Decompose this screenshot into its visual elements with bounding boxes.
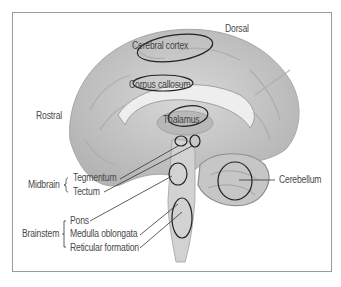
label-medulla-oblongata: Medulla oblongata <box>70 228 137 239</box>
label-midbrain: Midbrain <box>28 179 60 190</box>
label-corpus-callosum: Corpus callosum <box>129 79 190 90</box>
label-tegmentum: Tegmentum <box>73 172 116 183</box>
label-cerebellum: Cerebellum <box>279 174 321 185</box>
label-reticular-formation: Reticular formation <box>70 242 139 253</box>
label-tectum: Tectum <box>73 186 100 197</box>
brainstem-shape <box>168 139 195 262</box>
label-pons: Pons <box>70 215 89 226</box>
label-brainstem: Brainstem <box>22 228 59 239</box>
label-rostral: Rostral <box>36 110 62 121</box>
label-dorsal: Dorsal <box>225 23 249 34</box>
label-thalamus: Thalamus <box>163 114 199 125</box>
label-cerebral-cortex: Cerebral cortex <box>132 40 188 51</box>
